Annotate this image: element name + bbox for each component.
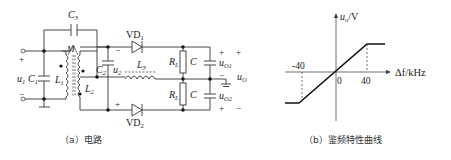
label-rl-bottom: RL — [168, 89, 179, 101]
inductor-l3-icon — [125, 76, 155, 79]
label-rl-top: RL — [168, 56, 179, 68]
label-l3: L3 — [136, 59, 147, 71]
wire-l2-bottom — [80, 97, 108, 110]
label-c1: C1 — [28, 73, 38, 85]
label-m: M — [66, 44, 75, 54]
capacitor-c1-icon — [38, 76, 50, 81]
label-minus-vd1: − — [115, 45, 120, 55]
label-c3: C3 — [68, 9, 79, 21]
label-c-bottom: C — [190, 89, 197, 100]
diode-vd2-icon — [132, 104, 142, 116]
label-vd2: VD2 — [126, 117, 144, 129]
junction-dot — [208, 77, 212, 81]
label-uo2: uO2 — [219, 90, 233, 102]
capacitor-c3-icon — [71, 24, 77, 36]
label-plus: + — [219, 103, 224, 113]
caption-chart: （b）鉴频特性曲线 — [304, 134, 382, 145]
label-l1: L1 — [54, 74, 64, 86]
tick-zero: 0 — [337, 76, 342, 86]
wire-l1-top — [62, 51, 66, 55]
input-plus-sign: + — [19, 54, 24, 64]
tick-minus40: -40 — [292, 61, 305, 71]
caption-circuit: （a）电路 — [60, 134, 102, 145]
x-axis-arrow-icon — [386, 70, 391, 74]
label-minus: − — [236, 103, 241, 113]
label-minus: − — [219, 70, 224, 80]
circuit-diagram: + − — [17, 9, 247, 145]
discriminator-chart: -40 0 40 uo/V Δf/kHz （b）鉴频特性曲线 — [285, 11, 426, 145]
label-uo1: uO1 — [219, 57, 232, 69]
output-ground-icon — [221, 79, 231, 87]
inductor-l2-icon — [78, 55, 80, 97]
polarity-dot — [78, 92, 81, 95]
tick-plus40: 40 — [361, 76, 371, 86]
y-axis-label: uo/V — [340, 11, 359, 23]
capacitor-c-top-icon — [204, 61, 216, 65]
junction-dot — [42, 97, 46, 101]
label-plus-vd2: + — [115, 99, 120, 109]
diode-vd1-icon — [132, 41, 142, 53]
y-axis-arrow-icon — [334, 13, 338, 18]
label-c2: C2 — [96, 64, 107, 76]
capacitor-c-bottom-icon — [204, 94, 216, 98]
label-c-top: C — [190, 56, 197, 67]
label-u2: u2 — [113, 64, 122, 76]
label-plus: + — [236, 47, 241, 57]
x-axis-label: Δf/kHz — [395, 67, 426, 78]
s-curve-line — [285, 44, 385, 103]
inductor-l1-icon — [66, 55, 68, 97]
label-uo: uO — [237, 71, 247, 83]
polarity-dot — [59, 64, 62, 67]
input-minus-sign: − — [19, 89, 24, 99]
resistor-rl-top-icon — [180, 51, 186, 73]
label-plus: + — [219, 47, 224, 57]
label-u1: u1 — [17, 73, 25, 85]
resistor-rl-bottom-icon — [180, 83, 186, 105]
figure-canvas: + − — [0, 0, 451, 160]
input-terminal-top — [21, 49, 25, 53]
label-l2: L2 — [84, 83, 95, 95]
label-vd1: VD1 — [126, 29, 144, 41]
polarity-dot — [81, 69, 84, 72]
